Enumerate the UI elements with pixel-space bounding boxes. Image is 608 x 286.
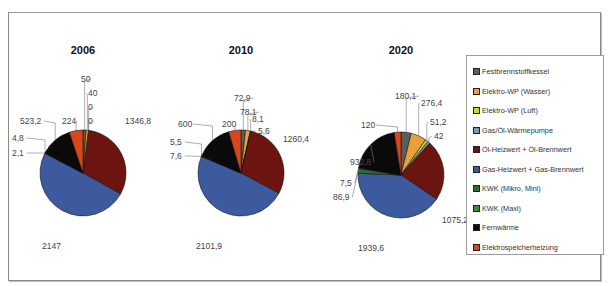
legend-swatch-icon — [473, 107, 480, 114]
leader-line — [352, 171, 358, 197]
data-label: 86,9 — [333, 192, 350, 202]
legend-item: Fernwärme — [473, 218, 603, 238]
legend-swatch-icon — [473, 146, 480, 153]
data-label: 4,8 — [12, 133, 24, 143]
legend-swatch-icon — [473, 166, 480, 173]
data-label: 8,1 — [252, 114, 264, 124]
legend-swatch-icon — [473, 68, 480, 75]
data-label: 180,1 — [395, 91, 417, 101]
legend-swatch-icon — [473, 244, 480, 251]
data-label: 200 — [222, 119, 236, 129]
data-label: 2,1 — [12, 148, 24, 158]
data-label: 120 — [361, 120, 375, 130]
leader-line — [27, 138, 45, 153]
legend-swatch-icon — [473, 88, 480, 95]
leader-line — [185, 142, 202, 156]
data-label: 1346,8 — [125, 116, 151, 126]
legend-item: Elektro-WP (Wasser) — [473, 82, 603, 102]
leader-line — [429, 136, 432, 142]
pie-slice — [359, 133, 401, 175]
data-label: 1260,4 — [283, 134, 309, 144]
data-label: 276,4 — [421, 98, 443, 108]
leader-line — [76, 121, 77, 131]
legend-swatch-icon — [473, 127, 480, 134]
data-label: 1075,2 — [442, 215, 468, 225]
legend-item: KWK (Maxi) — [473, 199, 603, 219]
pie-2006: 5040001346,821472,14,8523,2224 — [12, 74, 151, 251]
leader-line — [376, 125, 398, 132]
data-label: 2147 — [42, 241, 61, 251]
pie-2020: 180,1276,451,2421075,21939,686,97,5932,8… — [333, 91, 468, 253]
leader-line — [427, 122, 428, 141]
data-label: 51,2 — [430, 117, 447, 127]
data-label: 523,2 — [20, 116, 42, 126]
data-label: 5,5 — [170, 137, 182, 147]
legend-swatch-icon — [473, 185, 480, 192]
leader-line — [250, 119, 251, 131]
data-label: 600 — [178, 119, 192, 129]
legend: Festbrennstoffkessel Elektro-WP (Wasser)… — [466, 55, 604, 255]
legend-item: KWK (Mikro, Mini) — [473, 179, 603, 199]
legend-item: Elektrospeicherheizung — [473, 238, 603, 258]
data-label: 932,8 — [350, 157, 372, 167]
legend-item: Festbrennstoffkessel — [473, 62, 603, 82]
data-label: 42 — [434, 131, 444, 141]
leader-line — [193, 124, 213, 141]
pie-2010: 72,978,18,15,61260,42101,97,65,5600200 — [170, 93, 309, 251]
legend-swatch-icon — [473, 205, 480, 212]
data-label: 2101,9 — [196, 241, 222, 251]
leader-line — [44, 121, 55, 140]
leader-line — [406, 96, 419, 132]
data-label: 7,6 — [170, 151, 182, 161]
data-label: 72,9 — [234, 93, 251, 103]
legend-swatch-icon — [473, 224, 480, 231]
legend-item: Gas-Heizwert + Gas-Brennwert — [473, 160, 603, 180]
data-label: 224 — [62, 116, 76, 126]
legend-item: Elektro-WP (Luft) — [473, 101, 603, 121]
data-label: 50 — [81, 74, 91, 84]
data-label: 1939,6 — [358, 243, 384, 253]
data-label: 7,5 — [340, 178, 352, 188]
legend-item: Öl-Heizwert + Öl-Brennwert — [473, 140, 603, 160]
data-label: 40 — [88, 88, 98, 98]
legend-item: Gas/Öl-Wärmepumpe — [473, 121, 603, 141]
